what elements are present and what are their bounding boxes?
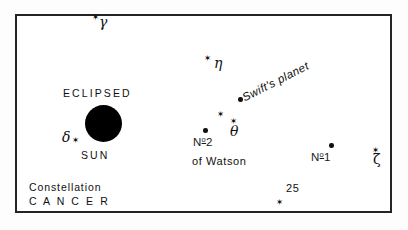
numero-sign: N <box>193 136 202 148</box>
no-1-digit: 1 <box>324 151 331 163</box>
point-source-swifts-planet <box>238 97 243 102</box>
numero-sign: N <box>311 151 320 163</box>
constellation-name-label: C A N C E R <box>29 196 110 207</box>
star-icon: ✶ <box>217 109 224 119</box>
sun-label: SUN <box>81 150 109 161</box>
label-star-25: 25 <box>286 183 299 194</box>
point-source-no-1 <box>329 143 334 148</box>
star-marker-eta: ✶ <box>204 48 211 64</box>
label-theta: θ <box>230 124 238 138</box>
label-gamma: γ <box>99 15 107 29</box>
label-delta: δ <box>62 130 70 144</box>
star-marker-near-swifts-planet: ✶ <box>217 104 224 120</box>
point-source-no-2-of-watson <box>203 128 208 133</box>
star-icon: ✶ <box>276 197 283 207</box>
eclipsed-sun-disk <box>85 105 122 142</box>
label-of-watson: of Watson <box>192 156 247 167</box>
eclipsed-label: ECLIPSED <box>63 88 132 99</box>
star-icon: ✶ <box>72 135 79 145</box>
star-chart-figure: ✶ γ ✶ η ECLIPSED SUN δ ✶ Swift's planet … <box>0 0 408 230</box>
label-eta: η <box>214 56 222 70</box>
star-marker-25: ✶ <box>276 192 283 208</box>
constellation-word-label: Constellation <box>29 182 101 193</box>
star-icon: ✶ <box>204 53 211 63</box>
star-marker-delta: ✶ <box>72 130 79 146</box>
label-no-2: No2 <box>193 136 213 149</box>
label-no-1: No1 <box>311 151 331 164</box>
label-zeta: ζ <box>373 152 381 166</box>
no-2-digit: 2 <box>206 136 213 148</box>
